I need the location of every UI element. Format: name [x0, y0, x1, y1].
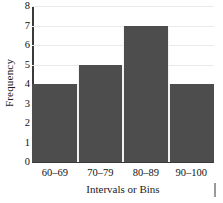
bar-cell[interactable] [123, 6, 169, 162]
x-axis-tick-labels: 60–6970–7980–8990–100 [32, 165, 214, 181]
y-tick-label: 1 [25, 137, 30, 148]
bar-cell[interactable] [169, 6, 215, 162]
bar-cell[interactable] [78, 6, 124, 162]
x-tick-label: 60–69 [32, 165, 78, 181]
x-tick-label: 90–100 [169, 165, 215, 181]
y-axis-tick-labels: 876543210 [18, 0, 31, 163]
y-tick-label: 7 [25, 20, 30, 31]
bar-cell[interactable] [32, 6, 78, 162]
y-tick-label: 0 [25, 157, 30, 168]
x-tick-label: 70–79 [78, 165, 124, 181]
y-tick-label: 3 [25, 98, 30, 109]
y-tick-label: 4 [25, 79, 30, 90]
bar-series [32, 6, 214, 162]
bar[interactable] [169, 84, 215, 162]
bar[interactable] [78, 65, 124, 163]
y-tick-label: 8 [25, 1, 30, 12]
x-axis-title: Intervals or Bins [32, 183, 214, 195]
x-tick-label: 80–89 [123, 165, 169, 181]
y-tick-label: 5 [25, 59, 30, 70]
y-tick-label: 2 [25, 118, 30, 129]
y-tick-label: 6 [25, 40, 30, 51]
x-axis-line [32, 162, 214, 163]
bar[interactable] [32, 84, 78, 162]
page-edge-artifact [214, 183, 216, 197]
plot-area [32, 6, 214, 162]
y-axis-title: Frequency [0, 0, 18, 165]
y-axis-title-text: Frequency [3, 58, 15, 106]
histogram-figure: Frequency 876543210 60–6970–7980–8990–10… [0, 0, 223, 203]
bar[interactable] [123, 26, 169, 163]
